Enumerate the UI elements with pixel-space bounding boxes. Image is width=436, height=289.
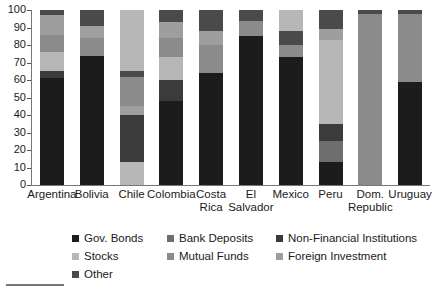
bar-segment[interactable]: [159, 57, 183, 80]
bar-segment[interactable]: [159, 101, 183, 185]
bar-segment[interactable]: [319, 29, 343, 40]
legend-swatch-icon: [72, 253, 79, 260]
stacked-bar-chart: 0102030405060708090100 ArgentinaBoliviaC…: [0, 0, 436, 289]
bar-column[interactable]: [120, 10, 144, 185]
x-axis-label-line1: El: [246, 188, 256, 200]
caption-rule: [6, 284, 64, 286]
bar-segment[interactable]: [319, 40, 343, 124]
bar-segment[interactable]: [279, 57, 303, 185]
bar-segment[interactable]: [40, 78, 64, 185]
y-axis-tick-label: 40: [14, 109, 26, 120]
bar-segment[interactable]: [239, 36, 263, 185]
y-axis: 0102030405060708090100: [0, 0, 29, 196]
bar-segment[interactable]: [358, 14, 382, 186]
legend-item[interactable]: Stocks: [72, 250, 119, 262]
bar-segment[interactable]: [159, 80, 183, 101]
legend-item[interactable]: Foreign Investment: [276, 250, 386, 262]
bar-stack: [199, 10, 223, 185]
bar-segment[interactable]: [279, 31, 303, 45]
x-axis-label: Uruguay: [383, 188, 436, 201]
x-axis-label-line1: Dom.: [357, 188, 384, 200]
y-axis-tick-label: 10: [14, 162, 26, 173]
bar-segment[interactable]: [40, 35, 64, 53]
bar-segment[interactable]: [239, 21, 263, 37]
y-axis-tick-label: 70: [14, 57, 26, 68]
x-axis-label-line2: Republic: [343, 201, 397, 214]
bar-segment[interactable]: [319, 10, 343, 29]
bar-segment[interactable]: [279, 45, 303, 57]
bar-segment[interactable]: [358, 10, 382, 14]
legend-label: Gov. Bonds: [84, 232, 143, 244]
legend-label: Stocks: [84, 250, 119, 262]
bar-segment[interactable]: [120, 106, 144, 115]
bar-segment[interactable]: [40, 71, 64, 78]
bar-segment[interactable]: [120, 10, 144, 71]
caption-strip: [0, 282, 436, 289]
bar-segment[interactable]: [120, 77, 144, 107]
x-axis-label-line1: Costa: [196, 188, 226, 200]
bar-stack: [398, 10, 422, 185]
bar-column[interactable]: [40, 10, 64, 185]
bar-segment[interactable]: [398, 10, 422, 14]
y-axis-tick-label: 50: [14, 92, 26, 103]
bar-segment[interactable]: [40, 10, 64, 15]
bar-stack: [120, 10, 144, 185]
y-axis-tick-label: 100: [8, 4, 26, 15]
legend-item[interactable]: Other: [72, 268, 113, 280]
legend-item[interactable]: Mutual Funds: [167, 250, 249, 262]
bar-segment[interactable]: [159, 22, 183, 38]
bar-segment[interactable]: [199, 10, 223, 31]
bar-column[interactable]: [159, 10, 183, 185]
bar-column[interactable]: [80, 10, 104, 185]
legend-label: Non-Financial Institutions: [288, 232, 417, 244]
bar-segment[interactable]: [80, 10, 104, 26]
x-axis-label-line1: Uruguay: [388, 188, 431, 200]
bar-segment[interactable]: [279, 10, 303, 31]
bar-segment[interactable]: [40, 15, 64, 34]
bar-segment[interactable]: [319, 162, 343, 185]
legend-swatch-icon: [167, 235, 174, 242]
bar-segment[interactable]: [199, 73, 223, 185]
bar-segment[interactable]: [120, 115, 144, 162]
bar-segment[interactable]: [80, 38, 104, 56]
bar-segment[interactable]: [159, 38, 183, 57]
bar-segment[interactable]: [80, 56, 104, 186]
bar-segment[interactable]: [398, 14, 422, 82]
x-axis-category-labels: ArgentinaBoliviaChileColombiaCostaRicaEl…: [0, 188, 436, 226]
legend-item[interactable]: Non-Financial Institutions: [276, 232, 417, 244]
x-axis-label-line2: Salvador: [224, 201, 278, 214]
bar-segment[interactable]: [239, 10, 263, 21]
bar-segment[interactable]: [319, 124, 343, 142]
bar-segment[interactable]: [80, 26, 104, 38]
legend-label: Bank Deposits: [179, 232, 253, 244]
legend-item[interactable]: Bank Deposits: [167, 232, 253, 244]
bar-segment[interactable]: [199, 31, 223, 45]
bar-column[interactable]: [398, 10, 422, 185]
bar-column[interactable]: [239, 10, 263, 185]
bar-segment[interactable]: [40, 52, 64, 71]
bar-segment[interactable]: [159, 10, 183, 22]
bar-column[interactable]: [319, 10, 343, 185]
legend-label: Other: [84, 268, 113, 280]
bar-column[interactable]: [279, 10, 303, 185]
y-axis-tick-label: 60: [14, 74, 26, 85]
bar-segment[interactable]: [120, 71, 144, 76]
y-axis-tick-label: 30: [14, 127, 26, 138]
legend-swatch-icon: [276, 253, 283, 260]
bar-stack: [279, 10, 303, 185]
legend-label: Foreign Investment: [288, 250, 386, 262]
bar-column[interactable]: [199, 10, 223, 185]
bar-stack: [319, 10, 343, 185]
bar-segment[interactable]: [398, 82, 422, 185]
bars-container: [32, 10, 430, 185]
bar-stack: [239, 10, 263, 185]
y-axis-tick-label: 80: [14, 39, 26, 50]
x-axis-line: [31, 185, 430, 186]
plot-area: 0102030405060708090100: [0, 0, 436, 196]
bar-segment[interactable]: [120, 162, 144, 185]
bar-column[interactable]: [358, 10, 382, 185]
bar-segment[interactable]: [199, 45, 223, 73]
chart-legend: Gov. BondsBank DepositsNon-Financial Ins…: [0, 228, 436, 278]
legend-item[interactable]: Gov. Bonds: [72, 232, 143, 244]
bar-segment[interactable]: [319, 141, 343, 162]
